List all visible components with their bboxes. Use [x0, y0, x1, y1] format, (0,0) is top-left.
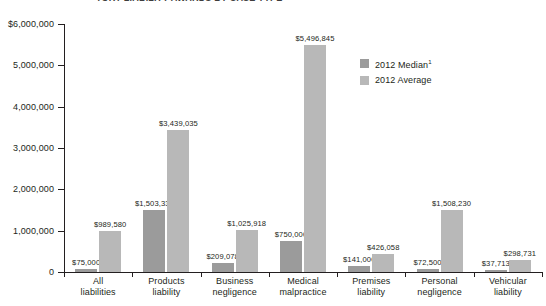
x-axis-category-label: Allliabilities	[64, 276, 132, 298]
bar-average	[372, 254, 394, 272]
bar-value-label: $5,496,845	[285, 35, 345, 43]
bar-value-label: $1,025,918	[217, 220, 277, 228]
y-axis-tick-label: 1,000,000	[13, 227, 54, 236]
x-axis-category-line: negligence	[201, 287, 269, 298]
chart-title-clipped: TORT LIABILITY AWARDS BY CASE TYPE	[0, 0, 546, 6]
bar-value-label: $3,439,035	[148, 120, 208, 128]
bar-median	[143, 210, 165, 272]
x-axis-category-line: Vehicular	[474, 276, 542, 287]
bar-group: $75,000$989,580	[75, 24, 121, 272]
x-axis-category-line: Products	[132, 276, 200, 287]
x-axis-line	[64, 272, 542, 273]
bar-average	[236, 230, 258, 272]
chart-legend: 2012 Median12012 Average	[360, 56, 432, 90]
y-axis-tick-label: 0	[49, 268, 54, 277]
bar-average	[99, 231, 121, 272]
bar-median	[75, 269, 97, 272]
bar-chart: TORT LIABILITY AWARDS BY CASE TYPE 01,00…	[0, 0, 546, 306]
legend-swatch-icon	[360, 76, 369, 85]
x-axis-category-label: Productsliability	[132, 276, 200, 298]
legend-item-label: 2012 Average	[375, 75, 432, 85]
bar-group: $37,713$298,731	[485, 24, 531, 272]
x-axis-category-label: Businessnegligence	[201, 276, 269, 298]
bar-median	[417, 269, 439, 272]
x-axis-category-line: negligence	[405, 287, 473, 298]
legend-item[interactable]: 2012 Median1	[360, 56, 432, 70]
legend-item-label: 2012 Median1	[375, 57, 432, 70]
bar-average	[441, 210, 463, 272]
y-axis-tick-label: $6,000,000	[8, 20, 54, 29]
x-axis-category-line: liabilities	[64, 287, 132, 298]
bars-layer: $75,000$989,580$1,503,339$3,439,035$209,…	[64, 24, 542, 272]
x-axis-category-line: All	[64, 276, 132, 287]
legend-item[interactable]: 2012 Average	[360, 73, 432, 87]
bar-median	[485, 270, 507, 272]
y-axis-tick-label: 2,000,000	[13, 185, 54, 194]
bar-median	[212, 263, 234, 272]
x-axis-category-line: Medical	[269, 276, 337, 287]
bar-value-label: $298,731	[490, 250, 546, 258]
bar-group: $1,503,339$3,439,035	[143, 24, 189, 272]
bar-median	[348, 266, 370, 272]
x-axis-category-line: Premises	[337, 276, 405, 287]
bar-median	[280, 241, 302, 272]
bar-average	[304, 45, 326, 272]
x-axis-tick	[542, 272, 543, 277]
y-axis-tick-label: 5,000,000	[13, 61, 54, 70]
legend-swatch-icon	[360, 59, 369, 68]
x-axis-category-labels: AllliabilitiesProductsliabilityBusinessn…	[64, 276, 542, 306]
bar-value-label: $426,058	[353, 244, 413, 252]
y-axis-tick-label: 4,000,000	[13, 103, 54, 112]
x-axis-category-line: liability	[337, 287, 405, 298]
x-axis-category-label: Personalnegligence	[405, 276, 473, 298]
x-axis-category-line: Personal	[405, 276, 473, 287]
x-axis-category-label: Vehicularliability	[474, 276, 542, 298]
x-axis-category-label: Medicalmalpractice	[269, 276, 337, 298]
x-axis-category-line: malpractice	[269, 287, 337, 298]
x-axis-category-line: Business	[201, 276, 269, 287]
bar-value-label: $1,508,230	[422, 200, 482, 208]
legend-footnote-marker: 1	[428, 59, 431, 65]
bar-value-label: $989,580	[80, 221, 140, 229]
x-axis-category-line: liability	[132, 287, 200, 298]
chart-title-text: TORT LIABILITY AWARDS BY CASE TYPE	[96, 0, 283, 3]
x-axis-category-label: Premisesliability	[337, 276, 405, 298]
bar-group: $209,078$1,025,918	[212, 24, 258, 272]
bar-average	[167, 130, 189, 272]
x-axis-category-line: liability	[474, 287, 542, 298]
bar-group: $750,000$5,496,845	[280, 24, 326, 272]
bar-average	[509, 260, 531, 272]
y-axis-tick-label: 3,000,000	[13, 144, 54, 153]
